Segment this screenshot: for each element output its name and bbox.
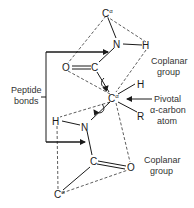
rotation-arrow-top [101, 78, 108, 87]
r-group-atom: R [137, 111, 144, 122]
bottom-plane-outline [57, 102, 130, 193]
calpha-top-atom: Cα [102, 8, 113, 19]
pivotal-label-1: Pivotal [154, 94, 181, 104]
h-center-atom: H [137, 79, 144, 90]
h-lower-atom: H [52, 116, 59, 127]
calpha-center-atom: Cα [108, 93, 119, 104]
peptide-label-1: Peptide [11, 85, 42, 95]
peptide-planes-diagram: Cα N H O C Cα H R H N C O Cα Coplanar gr… [0, 0, 194, 208]
coplanar-top-label-1: Coplanar [151, 56, 188, 66]
c-top-atom: C [91, 62, 98, 73]
top-bonds [72, 18, 142, 94]
n-top-atom: N [113, 39, 120, 50]
calpha-bottom-atom: Cα [54, 189, 65, 200]
coplanar-bottom-label-1: Coplanar [144, 155, 181, 165]
coplanar-top-label-2: group [157, 67, 180, 77]
peptide-label-2: bonds [14, 96, 39, 106]
coplanar-bottom-label-2: group [150, 166, 173, 176]
bottom-bonds [62, 102, 137, 190]
n-lower-atom: N [81, 122, 88, 133]
pivotal-label-3: atom [157, 116, 177, 126]
o-top-atom: O [62, 62, 70, 73]
c-lower-atom: C [90, 156, 97, 167]
h-top-atom: H [142, 40, 149, 51]
o-lower-atom: O [127, 162, 135, 173]
pivotal-label-2: α-carbon [150, 105, 186, 115]
